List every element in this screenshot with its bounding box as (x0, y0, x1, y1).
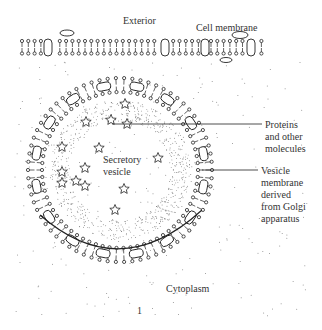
secretory-vesicle-label-line: vesicle (103, 166, 131, 177)
cell-membrane-label: Cell membrane (196, 22, 257, 33)
secretory-vesicle-label-line: Secretory (103, 154, 141, 165)
vesicle-membrane-label-line: Vesicle (261, 165, 290, 176)
vesicle-membrane-label-line: derived (261, 189, 291, 200)
vesicle-membrane-label-line: apparatus (261, 213, 299, 224)
cell-membrane-bilayer (20, 30, 263, 63)
exterior-label: Exterior (123, 15, 156, 26)
figure-number: 1 (137, 305, 142, 316)
cytoplasm-label: Cytoplasm (166, 283, 209, 294)
proteins-label-line: and other (265, 131, 303, 142)
vesicle-membrane-label-line: membrane (261, 177, 303, 188)
vesicle-membrane-label-line: from Golgi (261, 201, 306, 212)
proteins-label-line: Proteins (265, 119, 298, 130)
proteins-label-line: molecules (265, 143, 306, 154)
